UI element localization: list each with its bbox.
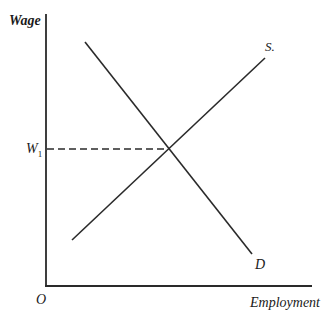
chart-canvas	[0, 0, 332, 318]
x-axis-label: Employment	[250, 296, 320, 310]
wage-level-subscript: 1	[38, 149, 43, 159]
wage-level-main: W	[26, 141, 38, 156]
origin-label: O	[36, 293, 46, 307]
demand-curve	[85, 42, 252, 254]
y-axis-label: Wage	[9, 14, 41, 28]
demand-label: D	[255, 258, 265, 272]
supply-label: S.	[265, 40, 275, 53]
wage-level-label: W1	[26, 142, 42, 159]
